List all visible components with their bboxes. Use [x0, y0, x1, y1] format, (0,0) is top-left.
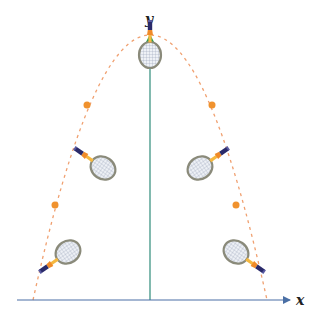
trajectory-marker	[209, 102, 216, 109]
trajectory-marker	[233, 202, 240, 209]
trajectory-marker	[52, 202, 59, 209]
racket-left-low-icon	[33, 236, 85, 282]
diagram-canvas: y x	[0, 0, 323, 319]
racket-right-low-icon	[219, 236, 271, 282]
x-axis-label: x	[295, 292, 305, 308]
trajectory-marker	[84, 102, 91, 109]
racket-apex-icon	[139, 20, 161, 68]
racket-right-mid-icon	[183, 139, 235, 185]
racket-left-mid-icon	[68, 139, 120, 185]
